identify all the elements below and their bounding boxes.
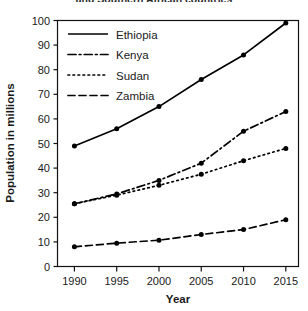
- y-tick-label: 70: [38, 88, 50, 100]
- x-axis-title: Year: [166, 293, 191, 305]
- y-tick-label: 50: [38, 138, 50, 150]
- y-tick-label: 40: [38, 162, 50, 174]
- data-point-marker: [156, 178, 161, 183]
- series-ethiopia: [72, 20, 288, 148]
- data-point-marker: [156, 104, 161, 109]
- data-point-marker: [156, 183, 161, 188]
- series-zambia: [72, 217, 288, 249]
- data-point-marker: [114, 126, 119, 131]
- legend-entry-zambia: Zambia: [68, 90, 155, 102]
- y-tick-label: 30: [38, 187, 50, 199]
- data-point-marker: [199, 161, 204, 166]
- series-sudan: [72, 146, 288, 206]
- x-tick-label: 1990: [62, 275, 86, 287]
- series-line: [74, 220, 285, 247]
- legend-entry-ethiopia: Ethiopia: [68, 29, 158, 41]
- y-tick-label: 60: [38, 113, 50, 125]
- chart-title-clipped: and Southern African countries: [0, 0, 308, 2]
- data-point-marker: [199, 172, 204, 177]
- legend-label: Zambia: [116, 90, 155, 102]
- data-point-marker: [72, 244, 77, 249]
- data-point-marker: [72, 143, 77, 148]
- data-point-marker: [199, 232, 204, 237]
- data-point-marker: [72, 201, 77, 206]
- x-tick-label: 2010: [231, 275, 255, 287]
- y-axis-title: Population in millions: [4, 83, 16, 202]
- data-point-marker: [283, 20, 288, 25]
- x-axis-tick-labels: 199019952000200520102015: [62, 275, 298, 287]
- legend-entry-kenya: Kenya: [68, 49, 149, 61]
- data-point-marker: [283, 217, 288, 222]
- data-point-marker: [114, 241, 119, 246]
- plot-frame: [58, 21, 299, 267]
- y-axis-tick-labels: 0102030405060708090100: [32, 15, 50, 273]
- y-tick-label: 20: [38, 211, 50, 223]
- y-tick-label: 100: [32, 15, 50, 27]
- x-tick-label: 2015: [274, 275, 298, 287]
- data-point-marker: [241, 129, 246, 134]
- x-tick-label: 2005: [189, 275, 213, 287]
- chart-container: and Southern African countries 010203040…: [0, 0, 308, 311]
- y-tick-label: 90: [38, 39, 50, 51]
- line-chart-plot: 0102030405060708090100 19901995200020052…: [0, 0, 308, 311]
- legend-label: Sudan: [116, 70, 149, 82]
- x-tick-label: 2000: [147, 275, 171, 287]
- series-line: [74, 23, 285, 146]
- data-point-marker: [156, 238, 161, 243]
- x-tick-label: 1995: [104, 275, 128, 287]
- y-tick-label: 10: [38, 236, 50, 248]
- chart-legend: EthiopiaKenyaSudanZambia: [68, 29, 158, 103]
- legend-label: Kenya: [116, 49, 149, 61]
- y-tick-label: 80: [38, 64, 50, 76]
- data-point-marker: [283, 109, 288, 114]
- data-point-marker: [283, 146, 288, 151]
- data-point-marker: [241, 158, 246, 163]
- legend-label: Ethiopia: [116, 29, 158, 41]
- x-axis-ticks: [74, 267, 285, 272]
- data-point-marker: [114, 193, 119, 198]
- legend-entry-sudan: Sudan: [68, 70, 149, 82]
- data-point-marker: [199, 77, 204, 82]
- data-point-marker: [241, 227, 246, 232]
- y-tick-label: 0: [44, 261, 50, 273]
- data-point-marker: [241, 52, 246, 57]
- series-line: [74, 148, 285, 203]
- series-kenya: [72, 109, 288, 206]
